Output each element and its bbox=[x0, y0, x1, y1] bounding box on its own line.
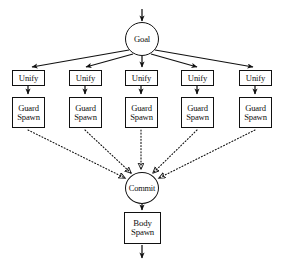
node-guard-spawn-2[interactable]: Guard Spawn bbox=[69, 97, 102, 128]
node-guard-spawn-3[interactable]: Guard Spawn bbox=[125, 97, 158, 128]
node-unify-5[interactable]: Unify bbox=[239, 70, 272, 86]
diagram-canvas: Goal Unify Unify Unify Unify Unify Guard… bbox=[0, 0, 282, 263]
node-unify-2-label: Unify bbox=[76, 74, 95, 83]
node-unify-3-label: Unify bbox=[132, 74, 151, 83]
edge-goal-to-unify-5 bbox=[155, 50, 253, 67]
node-unify-2[interactable]: Unify bbox=[69, 70, 102, 86]
node-unify-3[interactable]: Unify bbox=[125, 70, 158, 86]
node-guard-spawn-4[interactable]: Guard Spawn bbox=[181, 97, 214, 128]
node-unify-4[interactable]: Unify bbox=[181, 70, 214, 86]
node-guard-spawn-3-label-line2: Spawn bbox=[130, 113, 153, 122]
edge-guard-2-to-commit bbox=[85, 130, 131, 173]
node-body-spawn-label-line2: Spawn bbox=[131, 228, 154, 237]
node-unify-4-label: Unify bbox=[188, 74, 207, 83]
node-commit[interactable]: Commit bbox=[125, 172, 159, 204]
node-unify-1[interactable]: Unify bbox=[12, 70, 45, 86]
node-unify-5-label: Unify bbox=[246, 74, 265, 83]
node-goal-label: Goal bbox=[134, 34, 150, 44]
node-body-spawn[interactable]: Body Spawn bbox=[124, 212, 161, 244]
node-guard-spawn-1[interactable]: Guard Spawn bbox=[12, 97, 45, 128]
node-commit-label: Commit bbox=[129, 184, 155, 193]
node-guard-spawn-2-label-line2: Spawn bbox=[74, 113, 97, 122]
node-unify-1-label: Unify bbox=[19, 74, 38, 83]
node-guard-spawn-5[interactable]: Guard Spawn bbox=[239, 97, 272, 128]
node-guard-spawn-5-label-line2: Spawn bbox=[244, 113, 267, 122]
node-guard-spawn-4-label-line2: Spawn bbox=[186, 113, 209, 122]
node-goal[interactable]: Goal bbox=[125, 22, 159, 56]
edge-guard-5-to-commit bbox=[159, 130, 255, 178]
edge-guard-4-to-commit bbox=[153, 130, 197, 173]
node-guard-spawn-1-label-line2: Spawn bbox=[17, 113, 40, 122]
